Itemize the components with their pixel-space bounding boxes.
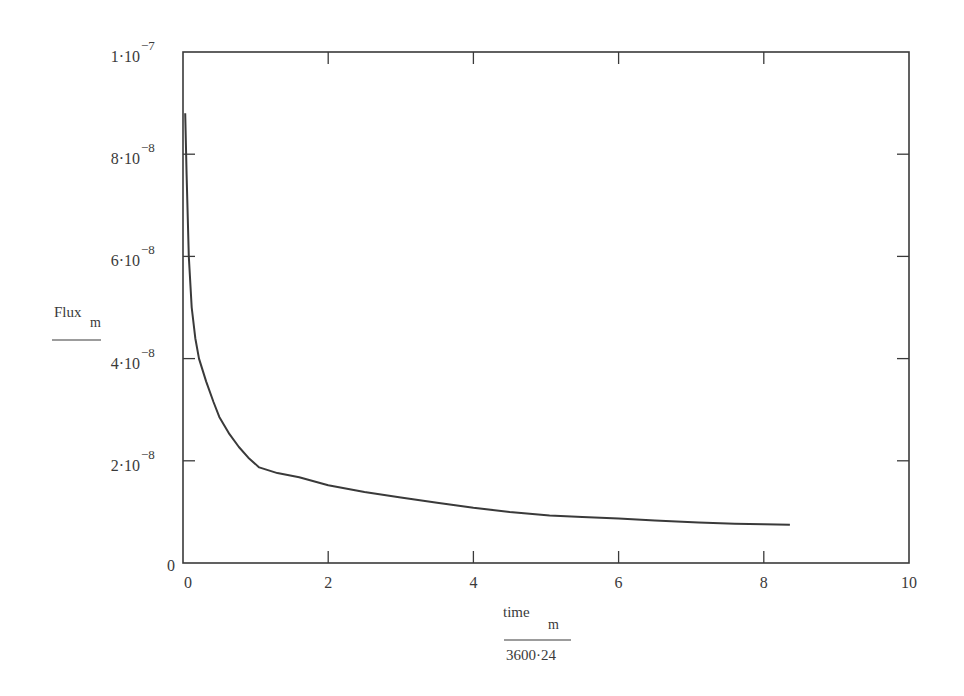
y-tick-label: 1·10−7 — [111, 38, 156, 65]
x-tick-label: 0 — [184, 574, 192, 591]
svg-text:m: m — [90, 315, 101, 330]
chart: 0246810 02·10−84·10−86·10−88·10−81·10−7 … — [0, 0, 964, 696]
y-tick-mantissa: 6·10 — [111, 252, 140, 269]
y-tick-exponent: −8 — [141, 345, 155, 360]
y-axis-label: Flux m — [52, 304, 101, 340]
y-tick-mantissa: 4·10 — [111, 355, 140, 372]
y-tick-exponent: −8 — [141, 140, 155, 155]
y-tick-label: 8·10−8 — [111, 140, 155, 167]
x-tick-label: 6 — [615, 574, 623, 591]
y-tick-mantissa: 2·10 — [111, 457, 140, 474]
svg-text:Flux: Flux — [54, 304, 82, 320]
x-axis-label-numerator: time — [503, 604, 530, 620]
x-tick-label: 4 — [469, 574, 477, 591]
x-tick-label: 8 — [760, 574, 768, 591]
svg-text:3600·24: 3600·24 — [506, 647, 556, 663]
x-axis-label-denominator: 3600·24 — [506, 647, 556, 663]
x-axis-label: time m 3600·24 — [503, 604, 571, 663]
y-tick-label: 4·10−8 — [111, 345, 155, 372]
x-axis-label-subscript: m — [548, 617, 559, 632]
y-tick-exponent: −8 — [141, 447, 155, 462]
plot-border — [183, 52, 909, 563]
y-axis-label-text: Flux — [54, 304, 82, 320]
y-tick-exponent: −8 — [141, 242, 155, 257]
x-tick-label: 2 — [324, 574, 332, 591]
svg-text:time: time — [503, 604, 530, 620]
y-tick-exponent: −7 — [141, 38, 155, 53]
y-tick-label: 0 — [167, 557, 175, 574]
plot-frame — [183, 52, 909, 563]
y-tick-labels: 02·10−84·10−86·10−88·10−81·10−7 — [111, 38, 175, 574]
y-tick-label: 6·10−8 — [111, 242, 155, 269]
flux-curve — [185, 113, 790, 524]
flux-vs-time-plot: 0246810 02·10−84·10−86·10−88·10−81·10−7 … — [0, 0, 964, 696]
data-series — [185, 113, 790, 524]
x-tick-labels: 0246810 — [184, 574, 917, 591]
x-tick-label: 10 — [901, 574, 917, 591]
y-tick-mantissa: 8·10 — [111, 150, 140, 167]
tick-marks — [183, 52, 909, 563]
y-axis-label-subscript: m — [90, 315, 101, 330]
y-tick-label: 2·10−8 — [111, 447, 155, 474]
svg-text:m: m — [548, 617, 559, 632]
y-tick-mantissa: 1·10 — [111, 48, 140, 65]
